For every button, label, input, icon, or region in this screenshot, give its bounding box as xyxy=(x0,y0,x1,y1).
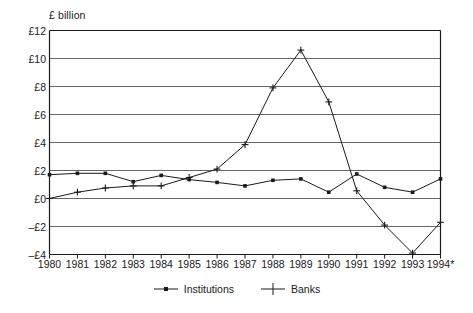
x-axis-tick-label: 1987 xyxy=(233,258,256,270)
data-point-marker xyxy=(243,184,247,188)
data-point-marker xyxy=(355,172,359,176)
x-axis-tick-label: 1983 xyxy=(122,258,145,270)
x-axis-tick-label: 1991 xyxy=(345,258,368,270)
data-point-marker xyxy=(383,186,387,190)
x-axis-tick-label: 1989 xyxy=(289,258,312,270)
y-axis-tick-label: £0 xyxy=(18,193,46,205)
data-point-marker xyxy=(102,185,109,192)
chart-container: £ billion £12£10£8£6£4£2£0–£2–£4 1980198… xyxy=(0,0,473,313)
y-axis-tick-label: £10 xyxy=(18,53,46,65)
data-point-marker xyxy=(104,172,108,176)
y-axis-tick-label: £4 xyxy=(18,137,46,149)
x-axis-tick-label: 1988 xyxy=(261,258,284,270)
chart-legend: Institutions Banks xyxy=(0,283,473,295)
y-axis-tick-label: £6 xyxy=(18,109,46,121)
series-line-banks xyxy=(50,50,441,253)
data-point-marker xyxy=(159,174,163,178)
x-axis-tick-label: 1993 xyxy=(401,258,424,270)
series-line-institutions xyxy=(50,173,441,192)
data-point-marker xyxy=(130,183,137,190)
x-axis-tick-label: 1985 xyxy=(177,258,200,270)
y-axis-tick-label: £2 xyxy=(18,165,46,177)
data-point-marker xyxy=(439,177,443,181)
x-axis-tick-label: 1990 xyxy=(317,258,340,270)
data-point-marker xyxy=(74,189,81,196)
legend-dot-marker-icon xyxy=(153,283,179,295)
data-point-marker xyxy=(215,181,219,185)
data-point-marker xyxy=(76,172,80,176)
legend-plus-marker-icon xyxy=(260,283,286,295)
data-point-marker xyxy=(299,177,303,181)
data-point-marker xyxy=(158,183,165,190)
data-point-marker xyxy=(48,173,52,177)
x-axis-tick-label: 1981 xyxy=(66,258,89,270)
x-axis-tick-label: 1994* xyxy=(427,258,454,270)
data-point-marker xyxy=(46,195,53,202)
x-axis-tick-label: 1986 xyxy=(205,258,228,270)
y-axis-tick-label: £12 xyxy=(18,25,46,37)
y-axis-tick-label: –£2 xyxy=(18,221,46,233)
x-axis-tick-label: 1980 xyxy=(38,258,61,270)
data-point-marker xyxy=(327,190,331,194)
x-axis-tick-label: 1984 xyxy=(150,258,173,270)
legend-item-banks: Banks xyxy=(260,283,320,295)
x-axis-tick-label: 1982 xyxy=(94,258,117,270)
data-point-marker xyxy=(271,179,275,183)
data-series-layer xyxy=(46,47,444,257)
y-axis-tick-label: £8 xyxy=(18,81,46,93)
data-point-marker xyxy=(325,99,332,106)
legend-label-institutions: Institutions xyxy=(184,283,234,295)
legend-label-banks: Banks xyxy=(291,283,320,295)
data-point-marker xyxy=(411,190,415,194)
x-axis-tick-label: 1992 xyxy=(373,258,396,270)
legend-item-institutions: Institutions xyxy=(153,283,234,295)
y-axis-title: £ billion xyxy=(49,9,86,21)
